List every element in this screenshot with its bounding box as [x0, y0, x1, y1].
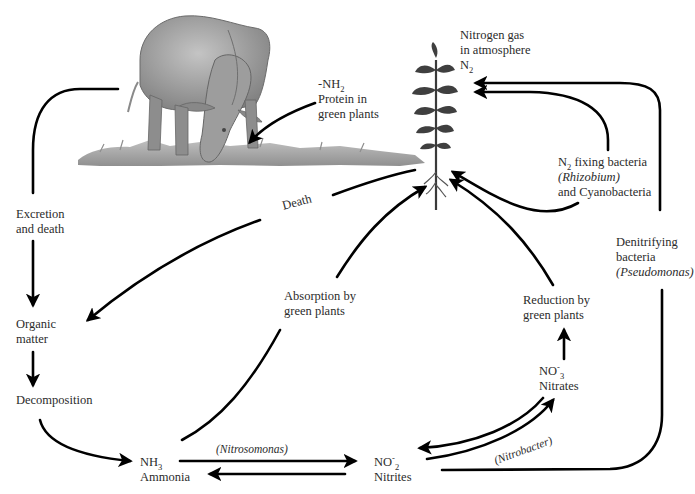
fixing-line1-rest: fixing bacteria [571, 155, 647, 169]
arrows [33, 83, 662, 474]
atmosphere-formula: N2 [460, 58, 530, 73]
arrow-nitrates-to-nitrites [420, 398, 543, 448]
reduction-line2: green plants [523, 308, 590, 323]
formula-base: -NH [318, 77, 340, 91]
absorption-line2: green plants [284, 304, 356, 319]
excretion-line2: and death [16, 222, 65, 237]
label-nitrites: NO-2 Nitrites [374, 455, 412, 485]
formula-base: NO [374, 455, 392, 469]
excretion-line1: Excretion [16, 207, 65, 222]
nitrates-formula: NO-3 [539, 364, 579, 379]
protein-formula: -NH2 [318, 77, 379, 92]
buffalo-illustration [128, 16, 270, 162]
atmosphere-line1: Nitrogen gas [460, 28, 530, 43]
formula-base: N [460, 58, 469, 72]
protein-line2: green plants [318, 107, 379, 122]
atmosphere-line2: in atmosphere [460, 43, 530, 58]
reduction-line1: Reduction by [523, 293, 590, 308]
arrow-death-to-organic [88, 220, 260, 320]
decomposition-line1: Decomposition [16, 393, 92, 408]
arrow-fixing-to-atmosphere [476, 92, 608, 150]
protein-line1: Protein in [318, 92, 379, 107]
arrow-absorption-to-plant [337, 187, 425, 277]
arrow-plant-to-death [333, 170, 415, 195]
organic-line1: Organic [16, 317, 56, 332]
denitrifying-line2: bacteria [616, 250, 694, 265]
organic-line2: matter [16, 332, 56, 347]
nitrites-line2: Nitrites [374, 470, 412, 485]
label-fixing-bacteria: N2 fixing bacteria (Rhizobium) and Cyano… [558, 155, 651, 200]
formula-base: N [558, 155, 567, 169]
nitrogen-cycle-diagram: Nitrogen gas in atmosphere N2 -NH2 Prote… [0, 0, 695, 494]
label-excretion: Excretion and death [16, 207, 65, 237]
plant-illustration [412, 42, 458, 210]
arrow-protein-to-animal [250, 103, 315, 142]
fixing-line2: (Rhizobium) [558, 170, 651, 185]
arrow-reduction-to-plant [451, 180, 553, 285]
nitrites-formula: NO-2 [374, 455, 412, 470]
label-protein: -NH2 Protein in green plants [318, 77, 379, 122]
label-reduction: Reduction by green plants [523, 293, 590, 323]
label-organic-matter: Organic matter [16, 317, 56, 347]
nitrates-line2: Nitrates [539, 379, 579, 394]
arrow-decomposition-to-ammonia [40, 420, 130, 461]
label-denitrifying: Denitrifying bacteria (Pseudomonas) [616, 235, 694, 280]
formula-base: NH [140, 455, 158, 469]
denitrifying-line1: Denitrifying [616, 235, 694, 250]
label-nitrates: NO-3 Nitrates [539, 364, 579, 394]
absorption-line1: Absorption by [284, 289, 356, 304]
arrow-ammonia-to-absorption [182, 330, 280, 440]
label-decomposition: Decomposition [16, 393, 92, 408]
diagram-canvas [0, 0, 695, 494]
label-absorption: Absorption by green plants [284, 289, 356, 319]
denitrifying-line3: (Pseudomonas) [616, 265, 694, 280]
formula-base: NO [539, 364, 557, 378]
fixing-line1: N2 fixing bacteria [558, 155, 651, 170]
arrow-animal-to-excretion [33, 89, 118, 193]
nitrosomonas-text: (Nitrosomonas) [216, 442, 288, 457]
label-ammonia: NH3 Ammonia [140, 455, 190, 485]
ammonia-line2: Ammonia [140, 470, 190, 485]
formula-sub: 2 [469, 65, 473, 75]
fixing-line3: and Cyanobacteria [558, 185, 651, 200]
ammonia-formula: NH3 [140, 455, 190, 470]
label-nitrosomonas: (Nitrosomonas) [216, 442, 288, 457]
label-atmosphere: Nitrogen gas in atmosphere N2 [460, 28, 530, 73]
